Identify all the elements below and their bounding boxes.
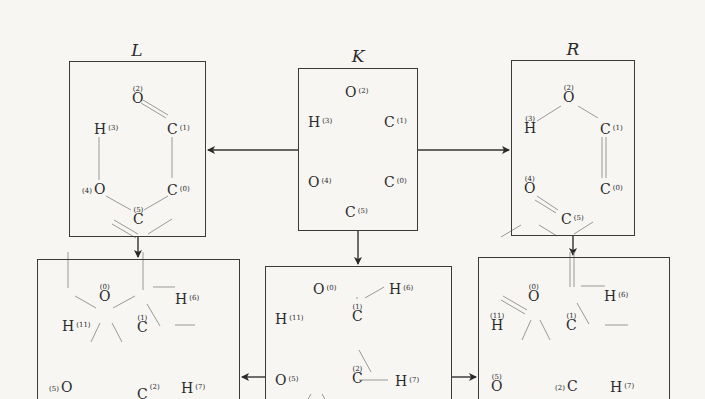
G-atom-H6: H(6) [175,291,199,306]
H-atom-O5: (5)O [491,379,502,393]
H-atom-H6: H(6) [604,288,628,303]
G-atom-H11: H(11) [62,318,91,333]
G-atom-O0: (0)O [99,289,110,303]
G-atom-C2: C(2) [137,380,160,399]
R-atom-C1: C(1) [600,121,623,136]
R-atom-O2: (2)O [563,90,574,104]
R-atom-C5: C(5) [561,211,584,226]
D-atom-H11: H(11) [275,311,304,326]
K-atom-C0: C(0) [384,174,407,189]
G-atom-O5: (5)O [49,380,72,396]
L-atom-O4: (4)O [82,182,105,198]
K-atom-H3: H(3) [308,114,332,129]
panel-L-title: L [131,40,142,60]
panel-R-title: R [567,39,580,59]
H-atom-H11: (11)H [491,318,503,332]
D-atom-H7: H(7) [395,373,419,388]
D-atom-O0: O(0) [313,281,336,296]
G-atom-C1: (1)C [137,320,148,334]
L-atom-H3: H(3) [94,121,118,136]
L-atom-C0: C(0) [167,182,190,197]
L-atom-O2: (2)O [132,91,143,105]
panel-K-title: K [352,46,365,66]
G-atom-H7: H(7) [181,380,205,395]
D-atom-C2: (2)C [352,371,363,385]
D-atom-C1: (1)C [352,309,363,323]
L-atom-C1: C(1) [167,121,190,136]
R-atom-C0: C(0) [600,181,623,196]
K-atom-O2: O(2) [345,84,368,99]
K-atom-O4: O(4) [308,174,331,189]
H-atom-O0: (0)O [528,289,539,303]
L-atom-C5: (5)C [133,212,144,226]
H-atom-C1: (1)C [566,318,577,332]
D-atom-H6: H(6) [389,281,413,296]
H-atom-C2: (2)C [555,379,578,395]
H-atom-H7: H(7) [610,379,634,394]
K-atom-C5: C(5) [345,204,368,219]
K-atom-C1: C(1) [384,114,407,129]
R-atom-H3: (3)H [524,121,536,135]
R-atom-O4: (4)O [524,181,535,195]
D-atom-O5: O(5) [275,372,298,387]
